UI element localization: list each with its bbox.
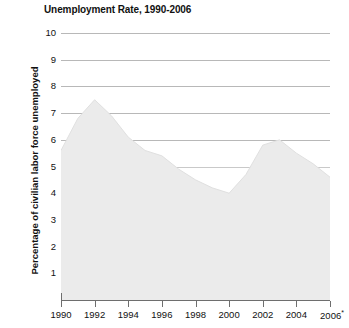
y-axis-tick-label: 1 bbox=[30, 267, 56, 278]
footnote-marker: * bbox=[341, 309, 344, 316]
x-axis-tick-label: 2004 bbox=[276, 309, 316, 320]
y-axis-tick-label: 8 bbox=[30, 80, 56, 91]
chart-title: Unemployment Rate, 1990-2006 bbox=[44, 4, 191, 15]
y-axis-tick-label: 5 bbox=[30, 161, 56, 172]
x-axis-tick-mark bbox=[61, 301, 62, 307]
y-axis-tick-label: 10 bbox=[30, 27, 56, 38]
y-axis-origin-tick bbox=[61, 293, 62, 301]
plot-area bbox=[61, 33, 330, 300]
x-axis-tick-mark bbox=[263, 301, 264, 307]
y-axis-tick-label: 9 bbox=[30, 54, 56, 65]
x-axis-tick-label: 2006* bbox=[312, 309, 349, 321]
y-axis-tick-label: 4 bbox=[30, 187, 56, 198]
y-axis-tick-label: 6 bbox=[30, 134, 56, 145]
area-series-unemployment-rate bbox=[61, 33, 330, 300]
x-axis-tick-mark bbox=[196, 301, 197, 307]
x-axis-tick-mark bbox=[162, 301, 163, 307]
x-axis-tick-mark bbox=[229, 301, 230, 307]
x-axis-tick-mark bbox=[330, 301, 331, 307]
y-axis-tick-label: 3 bbox=[30, 214, 56, 225]
x-axis-tick-mark bbox=[296, 301, 297, 307]
x-axis-tick-mark bbox=[128, 301, 129, 307]
x-axis-tick-mark bbox=[95, 301, 96, 307]
y-axis-tick-label: 7 bbox=[30, 107, 56, 118]
y-axis-tick-label: 2 bbox=[30, 241, 56, 252]
